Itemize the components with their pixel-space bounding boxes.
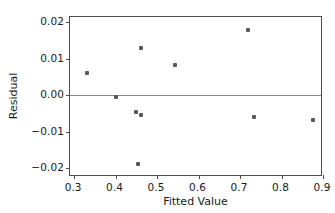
x-axis-tick xyxy=(157,175,158,179)
y-axis-tick xyxy=(66,132,70,133)
x-axis-tick-label-group: 0.30.40.50.60.70.80.9 xyxy=(0,181,335,195)
residual-vs-fitted-scatter-plot: 0.020.010.00−0.01−0.02 Residual 0.30.40.… xyxy=(0,0,335,213)
y-axis-tick xyxy=(66,168,70,169)
data-point xyxy=(252,115,256,119)
data-point xyxy=(85,71,89,75)
x-axis-tick xyxy=(74,175,75,179)
data-point xyxy=(136,162,140,166)
x-axis-tick xyxy=(282,175,283,179)
data-point xyxy=(173,63,177,67)
x-axis-tick xyxy=(323,175,324,179)
x-axis-tick-label: 0.8 xyxy=(272,181,289,193)
x-axis-tick xyxy=(199,175,200,179)
x-axis-tick-label: 0.6 xyxy=(189,181,206,193)
data-point xyxy=(114,95,118,99)
data-point xyxy=(311,118,315,122)
data-point xyxy=(246,28,250,32)
zero-reference-line xyxy=(70,95,321,96)
y-axis-tick xyxy=(66,22,70,23)
plot-area xyxy=(69,16,322,176)
x-axis-tick xyxy=(116,175,117,179)
y-axis-title: Residual xyxy=(7,73,20,119)
x-axis-tick-label: 0.9 xyxy=(314,181,331,193)
y-axis-tick xyxy=(66,95,70,96)
x-axis-tick-label: 0.4 xyxy=(106,181,123,193)
y-axis-tick-label: 0.02 xyxy=(40,15,64,27)
y-axis-tick-label: −0.01 xyxy=(31,125,64,137)
y-axis-tick-label: −0.02 xyxy=(31,161,64,173)
y-axis-tick xyxy=(66,59,70,60)
x-axis-tick-label: 0.3 xyxy=(65,181,82,193)
x-axis-title: Fitted Value xyxy=(69,195,322,208)
data-point xyxy=(139,113,143,117)
y-axis-tick-label: 0.01 xyxy=(40,52,64,64)
x-axis-tick-label: 0.7 xyxy=(231,181,248,193)
data-point xyxy=(134,110,138,114)
x-axis-tick xyxy=(240,175,241,179)
data-point xyxy=(139,46,143,50)
x-axis-tick-label: 0.5 xyxy=(148,181,165,193)
y-axis-tick-label: 0.00 xyxy=(40,88,64,100)
